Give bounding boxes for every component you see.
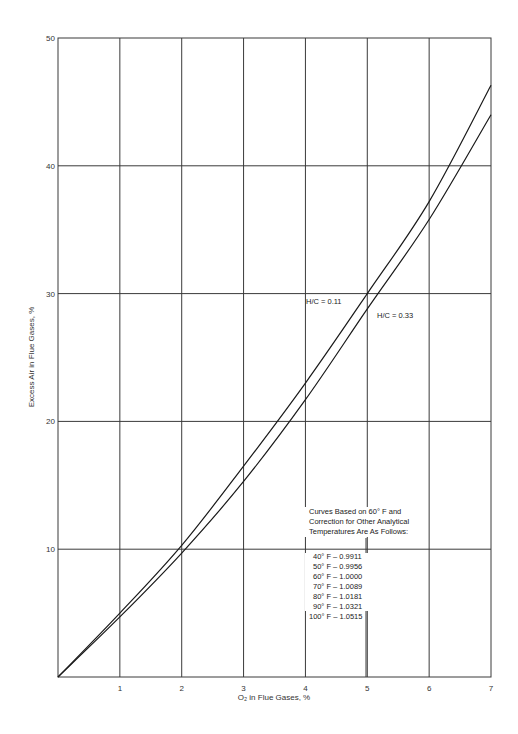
excess-air-chart: 1234567 1020304050 O₂ in Flue Gases, % E… [0, 0, 518, 734]
note-line-1: Curves Based on 60° F and [309, 507, 401, 516]
correction-40f: 40° F – 0.9911 [313, 552, 362, 561]
correction-90f: 90° F – 1.0321 [313, 602, 362, 611]
y-tick-label: 40 [46, 162, 55, 171]
curve-label-hc-033: H/C = 0.33 [377, 311, 413, 320]
curve-label-hc-011: H/C = 0.11 [306, 297, 342, 306]
x-tick-label: 3 [241, 684, 246, 693]
x-axis-label: O₂ in Flue Gases, % [238, 693, 310, 702]
y-tick-label: 10 [46, 545, 55, 554]
x-tick-label: 2 [179, 684, 184, 693]
y-tick-label: 50 [46, 34, 55, 43]
y-tick-label: 30 [46, 290, 55, 299]
curve-hc-033 [58, 115, 491, 677]
correction-50f: 50° F – 0.9956 [313, 562, 362, 571]
y-axis-label: Excess Air in Flue Gases, % [27, 307, 36, 407]
correction-80f: 80° F – 1.0181 [313, 592, 362, 601]
curves [58, 85, 491, 677]
x-tick-labels: 1234567 [118, 684, 494, 693]
correction-70f: 70° F – 1.0089 [313, 582, 362, 591]
note-line-3: Temperatures Are As Follows: [309, 527, 408, 536]
x-tick-label: 7 [489, 684, 494, 693]
x-tick-label: 1 [118, 684, 123, 693]
y-tick-labels: 1020304050 [46, 34, 55, 554]
correction-100f: 100° F – 1.0515 [309, 612, 362, 621]
x-tick-label: 4 [303, 684, 308, 693]
y-tick-label: 20 [46, 417, 55, 426]
x-tick-label: 5 [365, 684, 370, 693]
x-tick-label: 6 [427, 684, 432, 693]
curve-hc-011 [58, 85, 491, 677]
correction-60f: 60° F – 1.0000 [313, 572, 362, 581]
grid [58, 38, 491, 677]
temperature-correction-note: Curves Based on 60° F and Correction for… [304, 507, 424, 677]
plot-frame [58, 38, 491, 677]
note-line-2: Correction for Other Analytical [309, 517, 409, 526]
